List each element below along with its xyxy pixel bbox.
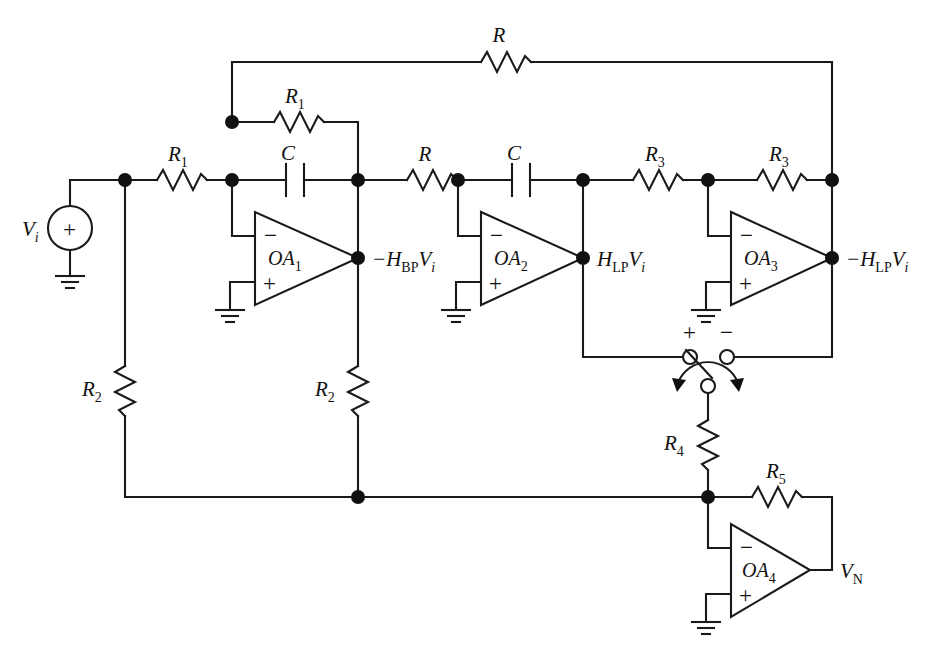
node-label-oa2-output: HLPVi [596, 247, 645, 275]
capacitor-C-series-label: C [507, 141, 522, 165]
resistor-R-series-symbol [407, 170, 457, 190]
resistor-R2-left-label: R2 [81, 377, 102, 405]
wire-oa2-inverting-input [458, 180, 481, 236]
switch-pole-contact[interactable] [701, 379, 715, 393]
resistor-symbols [115, 52, 807, 507]
wire-source-to-node [70, 180, 125, 206]
wire-oa3-inverting-input [708, 180, 731, 236]
resistor-R2-left-symbol [115, 366, 135, 416]
resistor-R-series-label: R [418, 142, 432, 166]
node-label-oa4-output: VN [840, 559, 863, 587]
resistor-R4-label: R4 [663, 431, 684, 459]
node-label-oa1-output: −HBPVi [372, 247, 435, 275]
opamp-oa3-inverting-sign: − [740, 223, 753, 248]
switch-arrow-left [672, 378, 686, 392]
opamp-oa4-noninverting-sign: + [739, 583, 752, 608]
opamp-oa4-inverting-sign: − [740, 535, 753, 560]
node-oa1-feedback-junction [351, 173, 365, 187]
schematic-canvas: Vi + R R1 R1 C R C R3 R3 R2 [0, 0, 931, 666]
resistor-R1-input-label: R1 [167, 142, 188, 170]
opamp-oa3-noninverting-sign: + [739, 271, 752, 296]
opamp-oa2-noninverting-sign: + [489, 271, 502, 296]
ground-oa2-symbol [442, 310, 470, 322]
capacitor-C-feedback-label: C [281, 141, 296, 165]
resistor-R5-label: R5 [765, 459, 786, 487]
switch-terminal-plus[interactable] [683, 350, 697, 364]
opamp-oa1-noninverting-sign: + [263, 271, 276, 296]
opamp-oa1-inverting-sign: − [264, 223, 277, 248]
ground-oa3-symbol [692, 310, 720, 322]
switch-terminal-minus[interactable] [720, 350, 734, 364]
resistor-R3-input-label: R3 [644, 142, 665, 170]
switch-label-minus: − [720, 320, 733, 345]
resistor-R3-input-symbol [633, 170, 683, 190]
resistor-R3-feedback-label: R3 [768, 142, 789, 170]
node-label-oa3-output: −HLPVi [846, 247, 909, 275]
resistor-R1-feedback-label: R1 [284, 84, 305, 112]
wire-oa2-noninverting-ground [456, 282, 481, 310]
wire-oa4-inverting-input [708, 497, 731, 548]
source-label: Vi [22, 217, 39, 245]
node-oa3-output [825, 251, 839, 265]
ground-oa4-symbol [692, 622, 720, 634]
wire-r2-left-branch [125, 180, 358, 497]
resistor-R4-symbol [698, 420, 718, 470]
ground-oa1-symbol [216, 310, 244, 322]
resistor-R5-symbol [752, 487, 802, 507]
resistor-R2-mid-symbol [348, 366, 368, 416]
wire-oa4-noninverting-ground [706, 594, 731, 622]
node-oa2-feedback-junction [576, 173, 590, 187]
resistor-R2-mid-label: R2 [314, 377, 335, 405]
node-bottom-mid [351, 490, 365, 504]
ground-symbols [56, 276, 720, 634]
wire-network [70, 62, 832, 622]
wire-oa1-noninverting-ground [230, 282, 255, 310]
resistor-R3-feedback-symbol [757, 170, 807, 190]
node-oa4-summing [701, 490, 715, 504]
circuit-diagram: Vi + R R1 R1 C R C R3 R3 R2 [0, 0, 931, 666]
node-oa1-summing [225, 173, 239, 187]
switch-label-plus: + [683, 320, 696, 345]
node-oa2-summing [451, 173, 465, 187]
wire-oa3-noninverting-ground [706, 282, 731, 310]
opamp-oa2-inverting-sign: − [490, 223, 503, 248]
resistor-R-top-symbol [481, 52, 531, 72]
node-oa1-summing-top [225, 115, 239, 129]
resistor-R-top-label: R [492, 23, 506, 47]
node-oa3-summing [701, 173, 715, 187]
wire-oa1-inverting-input [232, 180, 255, 236]
source-polarity-plus: + [63, 217, 76, 242]
polarity-selector-switch[interactable] [672, 350, 744, 393]
resistor-R1-feedback-symbol [274, 112, 324, 132]
switch-arrow-right [730, 378, 744, 392]
node-oa2-output [576, 251, 590, 265]
ground-source-symbol [56, 276, 84, 288]
node-oa3-feedback-junction [825, 173, 839, 187]
node-oa1-output [351, 251, 365, 265]
text-labels: Vi + R R1 R1 C R C R3 R3 R2 [22, 23, 909, 608]
node-input-divider [118, 173, 132, 187]
resistor-R1-input-symbol [157, 170, 207, 190]
